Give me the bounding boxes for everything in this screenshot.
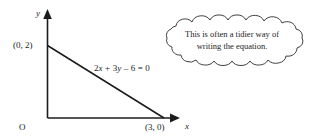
equation-rhs: 0	[145, 63, 150, 73]
figure-canvas: y x O (0, 2) (3, 0) 2x + 3y – 6 = 0 This…	[0, 0, 313, 140]
equation-label: 2x + 3y – 6 = 0	[94, 64, 150, 73]
graph-svg	[0, 0, 313, 140]
thought-cloud-line-2: writing the equation.	[168, 40, 296, 52]
x-axis-arrowhead	[170, 114, 180, 123]
y-axis-label: y	[36, 9, 40, 18]
y-intercept-label: (0, 2)	[13, 41, 33, 50]
equation-term1-var: x	[99, 63, 103, 73]
y-axis-arrowhead	[43, 9, 52, 19]
thought-cloud-line-1: This is often a tidier way of	[168, 28, 296, 40]
equation-equals: =	[138, 63, 143, 73]
equation-op1: +	[105, 63, 110, 73]
x-intercept-label: (3, 0)	[145, 123, 165, 132]
equation-op2: –	[124, 63, 129, 73]
equation-line	[48, 46, 165, 119]
x-axis-label: x	[185, 122, 189, 131]
equation-constant: 6	[131, 63, 136, 73]
origin-label: O	[19, 123, 26, 132]
thought-cloud-text: This is often a tidier way of writing th…	[168, 28, 296, 52]
equation-term2-var: y	[117, 63, 121, 73]
